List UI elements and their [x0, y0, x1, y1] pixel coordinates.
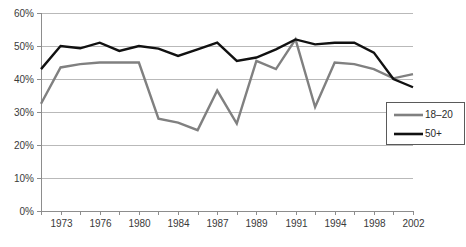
- y-tick-label: 60%: [14, 8, 34, 19]
- x-tick-label: 2002: [402, 218, 425, 229]
- legend-label: 18–20: [425, 109, 453, 120]
- x-tick-label: 1998: [363, 218, 386, 229]
- x-axis: 1973197619801984198719891991199419982002: [41, 211, 425, 229]
- y-axis: 60%50%40%30%20%10%0%: [14, 8, 42, 217]
- chart-canvas: 60%50%40%30%20%10%0% 1973197619801984198…: [0, 0, 466, 247]
- x-tick-label: 1991: [285, 218, 308, 229]
- y-tick-label: 50%: [14, 41, 34, 52]
- x-tick-label: 1994: [324, 218, 347, 229]
- legend-label: 50+: [425, 128, 442, 139]
- data-series-group: [41, 39, 413, 130]
- y-tick-label: 20%: [14, 140, 34, 151]
- y-tick-label: 30%: [14, 107, 34, 118]
- x-tick-label: 1987: [206, 218, 229, 229]
- chart-legend: 18–2050+: [387, 103, 465, 145]
- line-chart: 60%50%40%30%20%10%0% 1973197619801984198…: [0, 0, 466, 247]
- x-tick-label: 1976: [89, 218, 112, 229]
- x-tick-label: 1984: [167, 218, 190, 229]
- y-tick-label: 40%: [14, 74, 34, 85]
- x-tick-label: 1980: [128, 218, 151, 229]
- x-tick-label: 1989: [245, 218, 268, 229]
- y-tick-label: 0%: [20, 206, 35, 217]
- y-tick-label: 10%: [14, 173, 34, 184]
- x-tick-label: 1973: [50, 218, 73, 229]
